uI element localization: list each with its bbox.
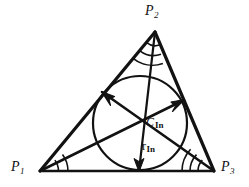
- geometry-canvas: [0, 0, 249, 187]
- inradius-label: rIn: [142, 140, 155, 154]
- vertex-label-p3-sub: 3: [230, 166, 235, 176]
- angle-bisector-lines: [40, 32, 214, 171]
- incenter-label-main: C: [146, 115, 154, 129]
- triangle-outline: [40, 32, 214, 171]
- vertex-label-p2-sub: 2: [154, 10, 159, 20]
- incenter-label: CIn: [146, 116, 164, 130]
- vertex-label-p1-main: P: [11, 159, 20, 174]
- vertex-label-p1-sub: 1: [20, 166, 25, 176]
- vertex-label-p2: P2: [145, 4, 159, 20]
- inradius-label-sub: In: [146, 144, 155, 154]
- incenter-label-sub: In: [154, 120, 164, 130]
- angle-arc-p2-3: [133, 59, 163, 66]
- vertex-label-p1: P1: [11, 160, 25, 176]
- vertex-label-p3-main: P: [221, 159, 230, 174]
- vertex-label-p3: P3: [221, 160, 235, 176]
- incircle-figure: P1 P2 P3 CIn rIn: [0, 0, 249, 187]
- vertex-label-p2-main: P: [145, 3, 154, 18]
- angle-arc-p2-2: [140, 51, 161, 56]
